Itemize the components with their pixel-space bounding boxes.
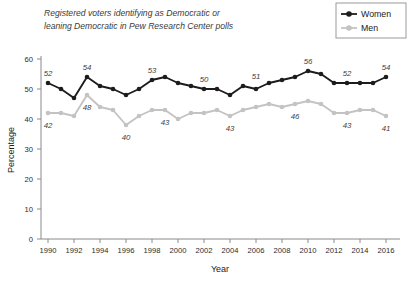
data-label-men-1996: 40 [122,133,131,142]
y-tick-label: 60 [25,55,33,64]
data-point [371,108,376,113]
data-point [358,81,363,86]
y-axis-title: Percentage [6,127,16,173]
y-tick-label: 10 [25,205,33,214]
x-tick-label: 2002 [196,246,213,255]
y-tick-label: 30 [25,145,33,154]
series-women [46,69,389,101]
data-label-women-2010: 56 [304,57,313,66]
data-point [85,75,90,80]
line-chart: Registered voters identifying as Democra… [0,0,409,282]
data-point [111,87,116,92]
y-tick-label: 40 [25,115,33,124]
data-point [319,102,324,107]
legend-marker-men [346,25,352,31]
data-point [267,81,272,86]
data-point [293,102,298,107]
legend-marker-women [346,11,352,17]
data-point [124,93,129,98]
legend-label-men: Men [361,23,378,33]
data-point [163,108,168,113]
data-point [215,108,220,113]
data-point [332,81,337,86]
chart-container: Registered voters identifying as Democra… [0,0,409,282]
x-tick-label: 2012 [326,246,343,255]
data-point [111,108,116,113]
data-point [254,105,259,110]
data-point [358,108,363,113]
data-point [215,87,220,92]
y-tick-label: 50 [25,85,33,94]
data-point [384,114,389,119]
x-axis-ticks: 1990199219941996199820002002200420062008… [40,239,395,255]
x-tick-label: 2008 [274,246,291,255]
series-layer [46,69,389,128]
data-point [137,87,142,92]
x-tick-label: 1990 [40,246,57,255]
x-tick-label: 2000 [170,246,187,255]
data-point [176,81,181,86]
legend-label-women: Women [361,9,391,19]
x-axis-title: Year [211,264,229,274]
data-point [280,78,285,83]
data-point [176,117,181,122]
chart-title-line-2: leaning Democratic in Pew Research Cente… [44,21,234,31]
data-point [267,102,272,107]
data-point [98,84,103,89]
data-point [124,123,129,128]
data-point [280,105,285,110]
x-tick-label: 2004 [222,246,239,255]
data-label-men-2016: 41 [382,124,391,133]
x-tick-label: 1994 [92,246,109,255]
data-point [202,87,207,92]
data-label-women-2006: 51 [252,72,261,81]
series-men [46,93,389,128]
y-tick-label: 0 [29,235,33,244]
data-label-women-2013: 52 [343,69,352,78]
data-point [189,84,194,89]
legend: Women Men [336,3,406,38]
data-point [163,75,168,80]
data-point [59,87,64,92]
data-label-women-2016: 54 [382,63,391,72]
data-point [202,111,207,116]
data-point [345,111,350,116]
data-point [306,99,311,104]
data-labels-layer: 52545350515652544248404343464341 [44,57,391,142]
x-tick-label: 1996 [118,246,135,255]
data-label-men-1990: 42 [44,121,53,130]
data-point [228,114,233,119]
x-tick-label: 1992 [66,246,83,255]
data-point [150,108,155,113]
y-tick-label: 20 [25,175,33,184]
data-point [98,105,103,110]
data-point [345,81,350,86]
x-tick-label: 2016 [378,246,395,255]
data-point [319,72,324,77]
data-point [189,111,194,116]
data-point [293,75,298,80]
x-tick-label: 2014 [352,246,369,255]
data-point [72,96,77,101]
data-point [332,111,337,116]
data-point [384,75,389,80]
data-label-women-2002: 50 [200,75,209,84]
data-point [306,69,311,74]
data-point [137,114,142,119]
data-point [46,111,51,116]
data-label-men-1999: 43 [161,118,170,127]
data-label-women-1990: 52 [44,69,53,78]
data-point [241,84,246,89]
data-label-men-2013: 43 [343,121,352,130]
y-axis-ticks: 0 10 20 30 40 50 60 [25,55,41,244]
data-point [72,114,77,119]
data-point [254,87,259,92]
data-label-women-1993: 54 [83,63,92,72]
data-label-men-1993: 48 [83,103,92,112]
data-point [241,108,246,113]
data-label-men-2009: 46 [291,112,300,121]
x-tick-label: 1998 [144,246,161,255]
data-label-men-2004: 43 [226,124,235,133]
data-point [150,78,155,83]
chart-title-line-1: Registered voters identifying as Democra… [44,8,221,18]
